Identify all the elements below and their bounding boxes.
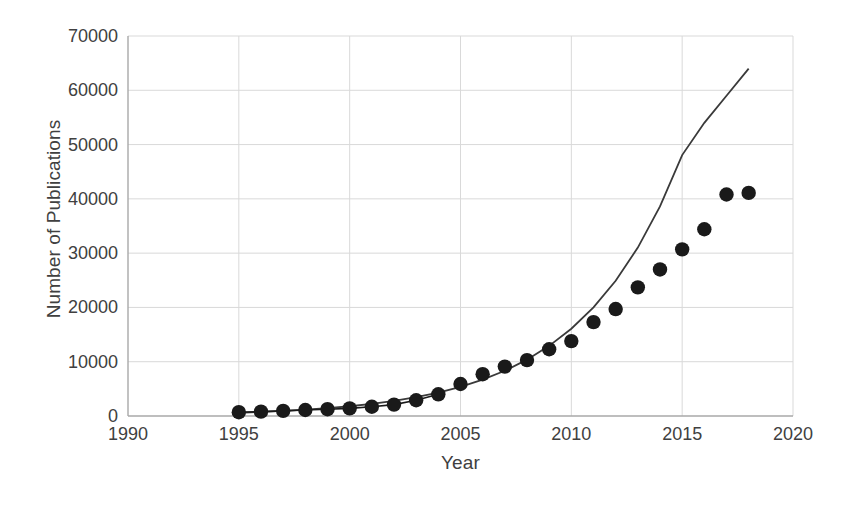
data-point-marker [276,404,290,418]
x-tick-label: 2010 [551,424,591,444]
data-point-marker [320,402,334,416]
data-point-marker [697,222,711,236]
x-tick-labels-group: 1990199520002005201020152020 [108,424,813,444]
data-point-marker [409,393,423,407]
y-tick-label: 40000 [68,189,118,209]
data-point-marker [365,400,379,414]
data-point-marker [653,262,667,276]
data-point-marker [298,403,312,417]
data-markers-group [232,186,756,420]
y-tick-label: 30000 [68,243,118,263]
gridlines-group [128,36,793,416]
data-point-marker [608,302,622,316]
x-tick-label: 2000 [330,424,370,444]
exponential-fit-curve [239,69,749,413]
data-point-marker [387,397,401,411]
y-axis-title: Number of Publications [43,69,65,369]
y-tick-label: 0 [108,406,118,426]
data-point-marker [564,334,578,348]
x-tick-label: 2005 [440,424,480,444]
data-point-marker [719,187,733,201]
data-point-marker [232,405,246,419]
x-tick-label: 1995 [219,424,259,444]
y-tick-label: 20000 [68,297,118,317]
data-point-marker [431,387,445,401]
chart-canvas: 010000200003000040000500006000070000 199… [0,0,845,506]
data-point-marker [498,359,512,373]
y-tick-labels-group: 010000200003000040000500006000070000 [68,26,118,426]
data-connector-line [239,394,438,412]
x-tick-label: 2020 [773,424,813,444]
data-point-marker [342,401,356,415]
data-point-marker [520,353,534,367]
data-point-marker [542,342,556,356]
y-tick-label: 70000 [68,26,118,46]
data-point-marker [675,242,689,256]
data-point-marker [254,404,268,418]
fit-curve-group [239,69,749,413]
data-point-marker [631,280,645,294]
data-point-marker [453,377,467,391]
x-axis-title: Year [128,452,793,474]
x-tick-label: 2015 [662,424,702,444]
data-point-marker [475,367,489,381]
x-tick-label: 1990 [108,424,148,444]
early-points-connector [239,394,438,412]
publications-chart: 010000200003000040000500006000070000 199… [0,0,845,506]
data-point-marker [586,315,600,329]
y-tick-label: 10000 [68,352,118,372]
y-tick-label: 50000 [68,135,118,155]
y-tick-label: 60000 [68,80,118,100]
data-point-marker [741,186,755,200]
